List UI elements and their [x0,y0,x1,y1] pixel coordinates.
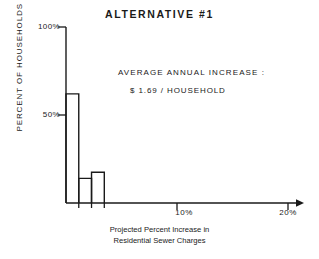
bar-2 [79,178,92,203]
x-axis-arrow-icon [296,199,304,207]
x-axis-caption: Projected Percent Increase in Residentia… [0,224,319,246]
chart-figure: ALTERNATIVE #1 PERCENT OF HOUSEHOLDS in … [0,0,319,259]
bar-3 [92,172,105,203]
plot-area [0,0,319,259]
x-axis-caption-line-1: Projected Percent Increase in [0,224,319,235]
x-axis-caption-line-2: Residential Sewer Charges [0,235,319,246]
bar-1 [66,94,79,203]
